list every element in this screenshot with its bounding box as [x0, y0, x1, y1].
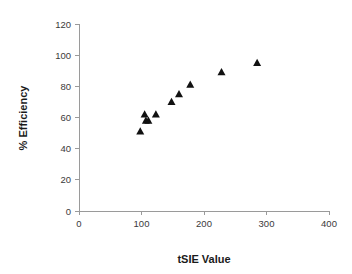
y-tick-label: 20	[60, 174, 71, 185]
x-tick-label: 400	[321, 218, 337, 229]
data-point-marker	[136, 127, 144, 134]
data-point-marker	[152, 110, 160, 117]
y-tick-label: 80	[60, 81, 71, 92]
y-tick-label: 40	[60, 143, 71, 154]
x-tick-label: 0	[76, 218, 81, 229]
data-point-marker	[186, 81, 194, 88]
y-axis-ticks: 020406080100120	[55, 19, 79, 217]
x-axis-title: tSIE Value	[177, 253, 230, 265]
scatter-chart: 020406080100120 0100200300400 tSIE Value…	[0, 0, 352, 274]
data-point-marker	[168, 98, 176, 105]
y-tick-label: 0	[66, 206, 71, 217]
data-point-marker	[218, 68, 226, 75]
data-point-marker	[253, 59, 261, 66]
x-tick-label: 200	[196, 218, 212, 229]
data-markers	[136, 59, 261, 135]
x-axis-ticks: 0100200300400	[76, 211, 337, 229]
x-tick-label: 100	[134, 218, 150, 229]
y-tick-label: 120	[55, 19, 71, 30]
y-tick-label: 100	[55, 50, 71, 61]
y-axis-title: % Efficiency	[17, 85, 29, 151]
data-point-marker	[175, 90, 183, 97]
y-tick-label: 60	[60, 112, 71, 123]
data-point-marker	[141, 110, 149, 117]
x-tick-label: 300	[259, 218, 275, 229]
plot-canvas: 020406080100120 0100200300400 tSIE Value…	[0, 0, 352, 274]
